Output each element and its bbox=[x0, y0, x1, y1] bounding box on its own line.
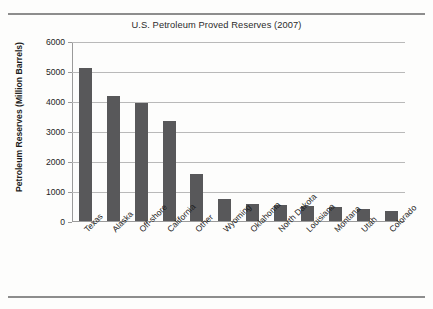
y-tick-label: 6000 bbox=[46, 37, 65, 47]
gridline bbox=[72, 72, 405, 73]
y-tick-label: 0 bbox=[60, 217, 65, 227]
gridline bbox=[72, 132, 405, 133]
y-tick-mark bbox=[68, 132, 72, 133]
y-tick-label: 4000 bbox=[46, 97, 65, 107]
y-tick-mark bbox=[68, 72, 72, 73]
y-axis-label: Petroleum Reserves (Million Barrels) bbox=[14, 27, 24, 207]
y-tick-label: 1000 bbox=[46, 187, 65, 197]
bar bbox=[135, 103, 148, 221]
bar bbox=[190, 174, 203, 221]
gridline bbox=[72, 102, 405, 103]
y-tick-label: 2000 bbox=[46, 157, 65, 167]
y-tick-mark bbox=[68, 162, 72, 163]
page-rule-top bbox=[8, 13, 425, 15]
y-tick-label: 5000 bbox=[46, 67, 65, 77]
gridline bbox=[72, 192, 405, 193]
gridline bbox=[72, 162, 405, 163]
page-rule-bottom bbox=[8, 296, 425, 298]
plot-area: 0100020003000400050006000 TexasAlaskaOff… bbox=[72, 42, 405, 222]
y-tick-mark bbox=[68, 102, 72, 103]
y-tick-mark bbox=[68, 222, 72, 223]
chart-title: U.S. Petroleum Proved Reserves (2007) bbox=[0, 20, 433, 30]
bar bbox=[107, 96, 120, 221]
y-tick-mark bbox=[68, 192, 72, 193]
figure-page: U.S. Petroleum Proved Reserves (2007) Pe… bbox=[0, 0, 433, 309]
bar bbox=[79, 68, 92, 221]
y-tick-mark bbox=[68, 42, 72, 43]
y-tick-label: 3000 bbox=[46, 127, 65, 137]
bar-chart: U.S. Petroleum Proved Reserves (2007) Pe… bbox=[0, 16, 433, 294]
gridline bbox=[72, 42, 405, 43]
